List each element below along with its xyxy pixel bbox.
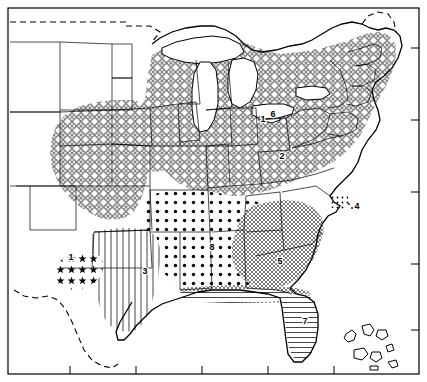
region-label-6: 6 (270, 109, 275, 119)
distribution-map-figure: 1 1 2 2 3 3 4 4 5 5 6 6 7 7 8 8 1 1 (0, 0, 427, 382)
region-label-7: 7 (302, 316, 307, 326)
region-label-4: 4 (354, 201, 359, 211)
region-label-3: 3 (142, 266, 147, 276)
extra-label-1: 1 (260, 114, 265, 124)
region-label-1: 1 (68, 252, 73, 262)
map-canvas: 1 1 2 2 3 3 4 4 5 5 6 6 7 7 8 8 1 1 (0, 0, 427, 382)
region-label-2: 2 (279, 151, 284, 161)
region-label-5: 5 (277, 256, 282, 266)
region-label-8: 8 (209, 242, 214, 252)
